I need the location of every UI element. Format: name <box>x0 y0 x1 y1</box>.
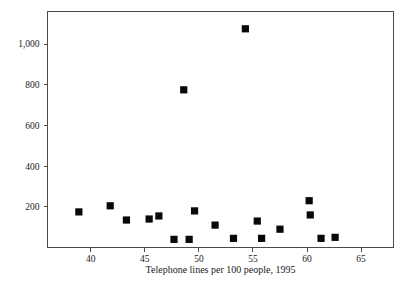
data-point <box>170 236 177 243</box>
x-axis-label: Telephone lines per 100 people, 1995 <box>47 264 394 275</box>
data-point <box>242 25 249 32</box>
plot-frame <box>48 12 394 248</box>
x-axis-ticks: 404550556065 <box>86 248 366 264</box>
data-point <box>307 211 314 218</box>
y-tick-label: 400 <box>25 162 40 172</box>
data-point <box>146 215 153 222</box>
data-point <box>191 207 198 214</box>
data-point <box>107 202 114 209</box>
data-point <box>180 86 187 93</box>
data-point <box>332 234 339 241</box>
data-point <box>258 235 265 242</box>
data-point <box>211 222 218 229</box>
x-tick-label: 60 <box>302 254 312 264</box>
data-point <box>155 212 162 219</box>
x-tick-label: 50 <box>194 254 204 264</box>
y-tick-label: 1,000 <box>18 39 40 49</box>
data-point <box>75 208 82 215</box>
chart-figure: 2004006008001,000 404550556065 Telephone… <box>0 0 416 288</box>
x-tick-label: 65 <box>356 254 366 264</box>
data-point <box>276 226 283 233</box>
x-tick-label: 45 <box>140 254 150 264</box>
data-point <box>186 236 193 243</box>
data-point <box>123 216 130 223</box>
x-tick-label: 55 <box>248 254 258 264</box>
data-point <box>254 217 261 224</box>
data-point <box>230 235 237 242</box>
data-point <box>317 235 324 242</box>
y-axis-ticks: 2004006008001,000 <box>18 39 47 212</box>
x-tick-label: 40 <box>86 254 96 264</box>
y-tick-label: 800 <box>25 80 40 90</box>
data-points <box>75 25 338 243</box>
y-tick-label: 600 <box>25 121 40 131</box>
data-point <box>306 197 313 204</box>
scatter-plot: 2004006008001,000 404550556065 <box>0 0 416 288</box>
y-tick-label: 200 <box>25 202 40 212</box>
